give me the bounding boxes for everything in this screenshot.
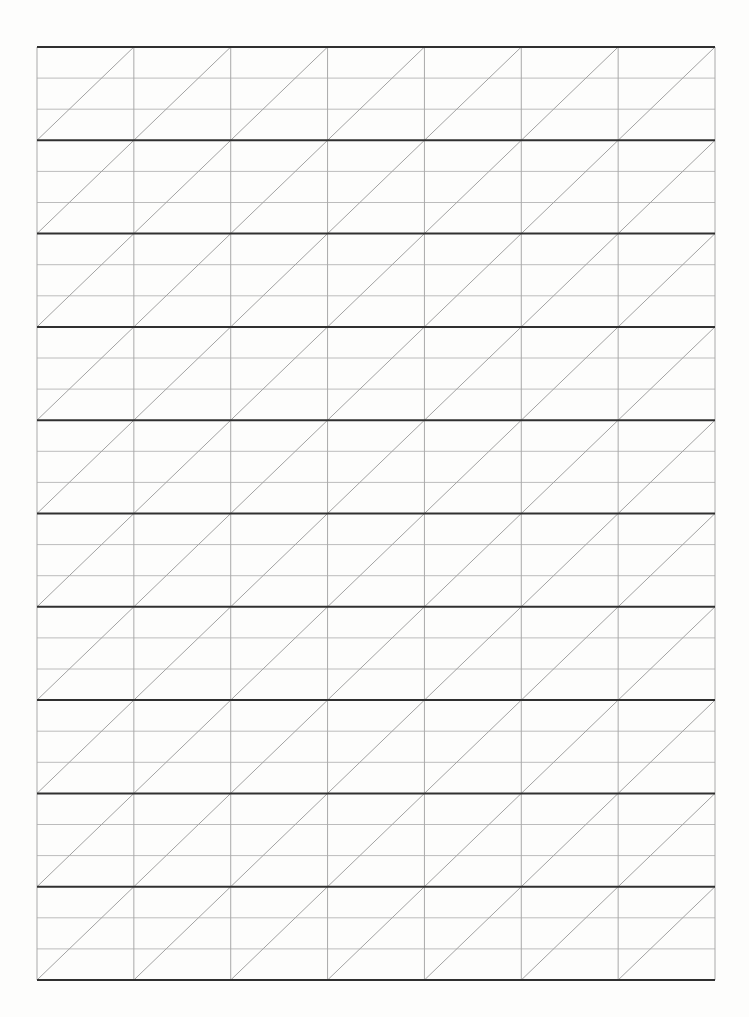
slant-grid-svg [0,0,749,1017]
slant-guide-line [424,700,715,980]
practice-sheet-page [0,0,749,1017]
slant-guide-line [37,47,134,140]
slant-guide-line [37,234,715,887]
slant-guide-line [37,140,715,793]
slant-guide-line [618,887,715,980]
slant-guide-line [37,47,328,327]
slant-guide-line [231,514,715,981]
slant-guide-line [37,47,521,514]
slant-guide-line [37,327,715,980]
slant-guide-line [37,47,715,700]
